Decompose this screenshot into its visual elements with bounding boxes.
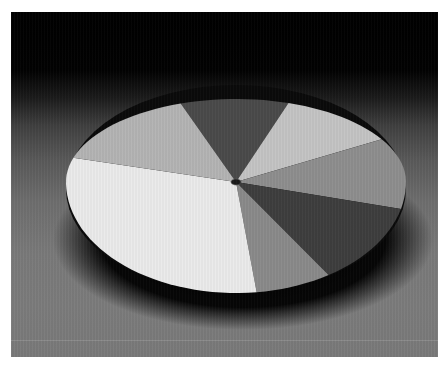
chart-frame xyxy=(11,12,438,357)
center-hub xyxy=(231,179,241,185)
pie-chart xyxy=(11,12,438,357)
